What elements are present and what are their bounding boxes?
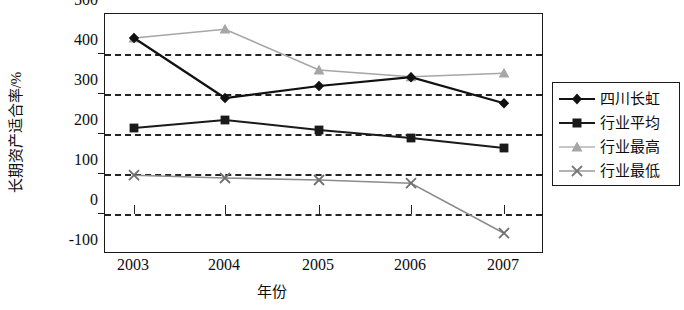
- plot-area: [104, 13, 543, 253]
- data-point-marker: [315, 126, 324, 135]
- legend-item-industry-average[interactable]: 行业平均: [558, 111, 674, 135]
- y-tick-label: 100: [42, 152, 98, 168]
- y-tick-label: -100: [42, 232, 98, 248]
- x-tick-label: 2007: [468, 256, 538, 274]
- x-tick-label: 2006: [375, 256, 445, 274]
- y-tick-label: 400: [42, 32, 98, 48]
- series-line-industry-average: [130, 116, 509, 153]
- x-tick-label: 2005: [283, 256, 353, 274]
- y-tick-label: 500: [42, 0, 98, 8]
- legend-label: 行业平均: [596, 113, 660, 133]
- x-axis-title: 年份: [0, 280, 543, 301]
- chart-figure: 长期资产适合率/% 500 400 300 200 100 0 -100 200…: [0, 0, 684, 310]
- legend-item-industry-max[interactable]: 行业最高: [558, 135, 674, 159]
- legend-label: 行业最低: [596, 161, 660, 181]
- legend-label: 行业最高: [596, 137, 660, 157]
- triangle-marker-icon: [558, 137, 596, 157]
- legend-item-industry-min[interactable]: 行业最低: [558, 159, 674, 183]
- data-point-marker: [220, 24, 231, 34]
- series-line-industry-min: [129, 170, 509, 238]
- data-point-marker: [130, 124, 139, 133]
- y-axis-title: 长期资产适合率/%: [4, 33, 25, 233]
- y-tick-label: 0: [42, 192, 98, 208]
- series-layer: [105, 14, 544, 254]
- y-tick-label: 300: [42, 72, 98, 88]
- data-point-marker: [500, 144, 509, 153]
- x-tick-label: 2004: [189, 256, 259, 274]
- diamond-marker-icon: [558, 89, 596, 109]
- x-marker-icon: [558, 161, 596, 181]
- data-point-marker: [407, 134, 416, 143]
- y-axis-tick-labels: 500 400 300 200 100 0 -100: [36, 0, 98, 240]
- data-point-marker: [499, 98, 509, 108]
- legend-item-changhong[interactable]: 四川长虹: [558, 87, 674, 111]
- y-tick-label: 200: [42, 112, 98, 128]
- data-point-marker: [221, 116, 230, 125]
- legend-label: 四川长虹: [596, 89, 660, 109]
- data-point-marker: [314, 81, 324, 91]
- series-path: [134, 175, 504, 233]
- square-marker-icon: [558, 113, 596, 133]
- data-point-marker: [499, 228, 509, 238]
- chart-legend: 四川长虹 行业平均 行业最高 行业最低: [552, 82, 680, 186]
- x-tick-label: 2003: [98, 256, 168, 274]
